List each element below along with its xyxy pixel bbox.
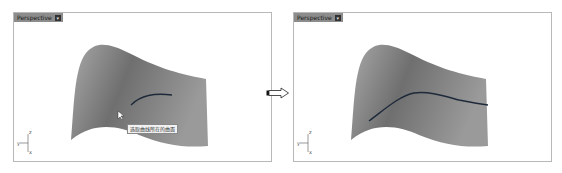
x-axis-label: x [29, 149, 32, 155]
viewport-label: Perspective [297, 13, 332, 22]
axis-gizmo: z y x [17, 128, 37, 156]
surface-scene-left [14, 13, 273, 163]
surface-scene-right [294, 13, 553, 163]
axis-gizmo: z y x [297, 128, 317, 156]
viewport-left[interactable]: Perspective ▾ 选取曲线所在的曲面 z y x [13, 12, 272, 162]
z-axis-label: z [309, 129, 312, 135]
viewport-title-tab[interactable]: Perspective ▾ [14, 13, 63, 22]
viewport-right[interactable]: Perspective ▾ z y x [293, 12, 552, 162]
y-axis-label: y [297, 140, 300, 146]
right-arrow-icon [266, 87, 290, 99]
chevron-down-icon[interactable]: ▾ [335, 15, 341, 21]
x-axis-label: x [309, 149, 312, 155]
chevron-down-icon[interactable]: ▾ [55, 15, 61, 21]
z-axis-label: z [29, 129, 32, 135]
viewport-title-tab[interactable]: Perspective ▾ [294, 13, 343, 22]
nurbs-surface [351, 45, 488, 147]
command-prompt-tooltip: 选取曲线所在的曲面 [127, 124, 178, 134]
y-axis-label: y [17, 140, 20, 146]
viewport-label: Perspective [17, 13, 52, 22]
